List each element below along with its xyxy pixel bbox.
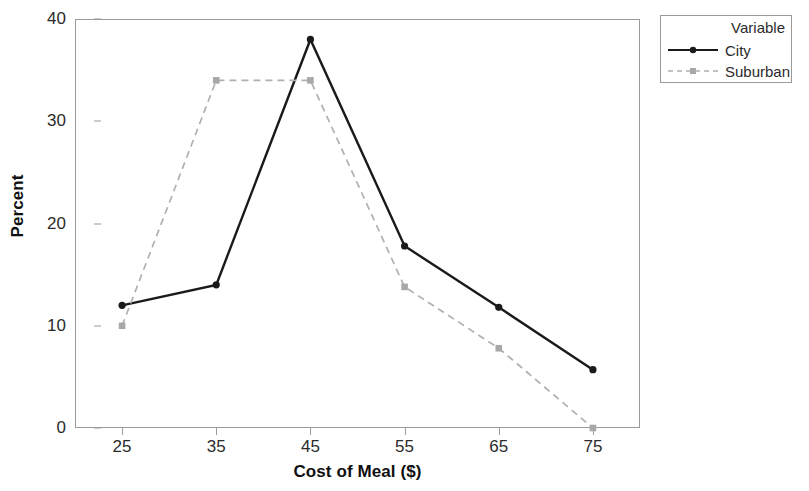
x-tick-mark <box>310 428 311 435</box>
x-tick-label: 35 <box>207 437 226 457</box>
y-tick-label: 40 <box>32 9 66 29</box>
data-point-marker <box>589 366 596 373</box>
x-tick-mark <box>216 428 217 435</box>
legend-title: Variable <box>661 19 785 36</box>
x-tick-mark <box>499 428 500 435</box>
y-axis-ticks: 010203040 <box>26 0 66 491</box>
data-point-marker <box>495 304 502 311</box>
data-point-marker <box>590 425 597 432</box>
legend: Variable City Suburban <box>660 15 792 83</box>
data-point-marker <box>118 302 125 309</box>
x-tick-label: 45 <box>301 437 320 457</box>
data-point-marker <box>213 281 220 288</box>
x-tick-label: 65 <box>489 437 508 457</box>
y-axis-title: Percent <box>8 136 28 276</box>
legend-label-city: City <box>725 42 751 59</box>
series-line <box>122 80 593 428</box>
chart-root: 010203040 253545556575 Cost of Meal ($) … <box>0 0 809 491</box>
y-tick-label: 0 <box>32 418 66 438</box>
data-point-marker <box>401 284 408 291</box>
x-tick-label: 55 <box>395 437 414 457</box>
series-line <box>122 39 593 369</box>
data-point-marker <box>119 322 126 329</box>
x-tick-label: 25 <box>113 437 132 457</box>
y-tick-label: 30 <box>32 111 66 131</box>
data-point-marker <box>213 77 220 84</box>
legend-swatch-city <box>667 43 719 57</box>
data-point-marker <box>307 36 314 43</box>
data-point-marker <box>307 77 314 84</box>
y-tick-label: 10 <box>32 316 66 336</box>
x-axis-title: Cost of Meal ($) <box>0 462 715 482</box>
legend-swatch-suburban <box>667 64 719 78</box>
series-city <box>118 36 596 373</box>
data-point-marker <box>495 345 502 352</box>
series-suburban <box>119 77 596 431</box>
x-tick-mark <box>122 428 123 435</box>
x-tick-label: 75 <box>583 437 602 457</box>
y-tick-label: 20 <box>32 214 66 234</box>
legend-item-suburban[interactable]: Suburban <box>667 61 787 81</box>
data-point-marker <box>401 242 408 249</box>
legend-label-suburban: Suburban <box>725 63 790 80</box>
plot-series-svg <box>75 19 640 428</box>
legend-item-city[interactable]: City <box>667 40 787 60</box>
x-tick-mark <box>405 428 406 435</box>
